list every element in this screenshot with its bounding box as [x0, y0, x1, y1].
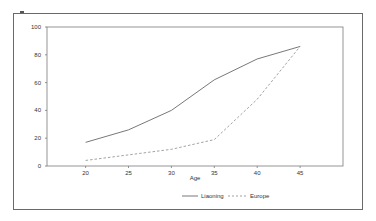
y-tick-label: 60: [34, 80, 41, 86]
y-tick-label: 0: [38, 163, 42, 169]
x-tick-label: 45: [297, 170, 304, 176]
y-tick-label: 100: [31, 24, 42, 30]
y-tick-label: 80: [34, 52, 41, 58]
series-line-europe: [86, 46, 300, 160]
y-axis: 020406080100: [31, 24, 47, 169]
plot-area-frame: [47, 27, 343, 166]
x-tick-label: 30: [168, 170, 175, 176]
legend-label-liaoning: Liaoning: [201, 193, 224, 199]
series-lines: [86, 46, 300, 160]
line-chart: 020406080100 202530354045 Age Liaoning E…: [0, 0, 376, 221]
x-tick-label: 35: [211, 170, 218, 176]
x-tick-label: 25: [125, 170, 132, 176]
x-tick-label: 40: [254, 170, 261, 176]
series-line-liaoning: [86, 46, 300, 142]
y-tick-label: 40: [34, 107, 41, 113]
legend-label-europe: Europe: [250, 193, 270, 199]
x-axis-label: Age: [190, 175, 201, 181]
y-tick-label: 20: [34, 135, 41, 141]
x-tick-label: 20: [82, 170, 89, 176]
legend: Liaoning Europe: [182, 193, 270, 199]
